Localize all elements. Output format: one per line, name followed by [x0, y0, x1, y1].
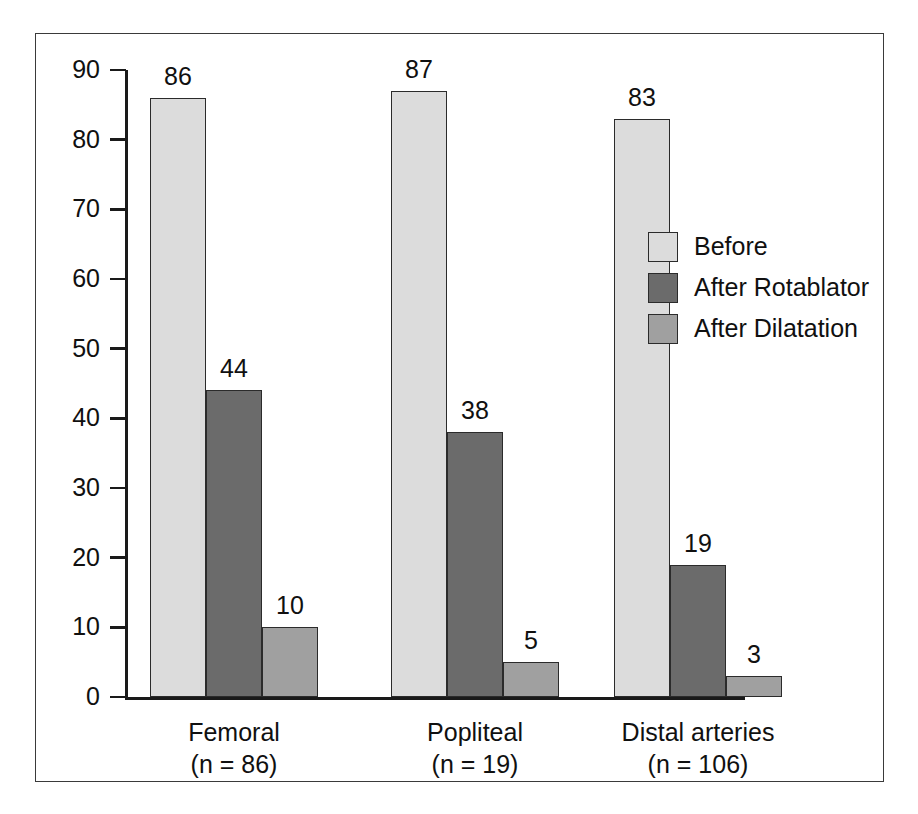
- y-axis-tick-40: [110, 417, 126, 420]
- y-axis-tick-label-60: 60: [24, 266, 100, 291]
- legend-label: After Rotablator: [694, 275, 869, 300]
- bar-popliteal-after-dilatation[interactable]: [503, 662, 559, 697]
- legend-item-after-dilatation[interactable]: After Dilatation: [648, 310, 869, 347]
- y-axis-tick-label-30: 30: [24, 475, 100, 500]
- bar-distal-arteries-before[interactable]: [614, 119, 670, 697]
- legend-swatch-icon-after-dilatation: [648, 314, 678, 344]
- bar-value-label-distal-arteries-after-rotablator: 19: [654, 531, 742, 556]
- x-axis-label-distal-arteries: Distal arteries(n = 106): [568, 716, 828, 780]
- legend-label: Before: [694, 234, 768, 259]
- bar-value-label-distal-arteries-before: 83: [598, 85, 686, 110]
- y-axis-tick-50: [110, 347, 126, 350]
- y-axis-tick-label-70: 70: [24, 196, 100, 221]
- bar-value-label-popliteal-before: 87: [375, 57, 463, 82]
- y-axis-tick-label-20: 20: [24, 545, 100, 570]
- y-axis-tick-label-10: 10: [24, 614, 100, 639]
- x-axis-label-count: (n = 86): [104, 748, 364, 780]
- bar-value-label-femoral-after-rotablator: 44: [190, 356, 278, 381]
- y-axis-line: [125, 70, 128, 698]
- legend-swatch-icon-after-rotablator: [648, 273, 678, 303]
- y-axis-tick-0: [110, 696, 126, 699]
- x-axis-line: [125, 697, 745, 700]
- x-axis-label-name: Femoral: [188, 718, 280, 746]
- x-axis-label-count: (n = 19): [345, 748, 605, 780]
- legend-swatch-icon-before: [648, 232, 678, 262]
- y-axis-tick-30: [110, 487, 126, 490]
- x-axis-label-name: Distal arteries: [622, 718, 775, 746]
- bar-femoral-before[interactable]: [150, 98, 206, 697]
- x-axis-label-popliteal: Popliteal(n = 19): [345, 716, 605, 780]
- bar-popliteal-after-rotablator[interactable]: [447, 432, 503, 697]
- y-axis-tick-label-90: 90: [24, 57, 100, 82]
- bar-value-label-femoral-before: 86: [134, 64, 222, 89]
- bar-distal-arteries-after-rotablator[interactable]: [670, 565, 726, 697]
- y-axis-tick-20: [110, 556, 126, 559]
- x-axis-label-count: (n = 106): [568, 748, 828, 780]
- bar-value-label-popliteal-after-dilatation: 5: [487, 628, 575, 653]
- y-axis-tick-60: [110, 278, 126, 281]
- y-axis-tick-10: [110, 626, 126, 629]
- chart-legend: BeforeAfter RotablatorAfter Dilatation: [648, 228, 869, 351]
- bar-popliteal-before[interactable]: [391, 91, 447, 697]
- bar-chart-plot: 9080706050403020100 8644108738583193 Fem…: [0, 0, 918, 814]
- legend-item-before[interactable]: Before: [648, 228, 869, 265]
- y-axis-tick-label-50: 50: [24, 336, 100, 361]
- y-axis-tick-label-0: 0: [24, 684, 100, 709]
- x-axis-label-femoral: Femoral(n = 86): [104, 716, 364, 780]
- legend-item-after-rotablator[interactable]: After Rotablator: [648, 269, 869, 306]
- figure: 9080706050403020100 8644108738583193 Fem…: [0, 0, 918, 814]
- legend-label: After Dilatation: [694, 316, 858, 341]
- y-axis-tick-70: [110, 208, 126, 211]
- bar-femoral-after-dilatation[interactable]: [262, 627, 318, 697]
- x-axis-label-name: Popliteal: [427, 718, 523, 746]
- bar-value-label-distal-arteries-after-dilatation: 3: [710, 642, 798, 667]
- y-axis-tick-80: [110, 138, 126, 141]
- bar-value-label-femoral-after-dilatation: 10: [246, 593, 334, 618]
- y-axis-tick-label-80: 80: [24, 127, 100, 152]
- bar-distal-arteries-after-dilatation[interactable]: [726, 676, 782, 697]
- y-axis-tick-90: [110, 69, 126, 72]
- bar-value-label-popliteal-after-rotablator: 38: [431, 398, 519, 423]
- bar-femoral-after-rotablator[interactable]: [206, 390, 262, 697]
- y-axis-tick-label-40: 40: [24, 405, 100, 430]
